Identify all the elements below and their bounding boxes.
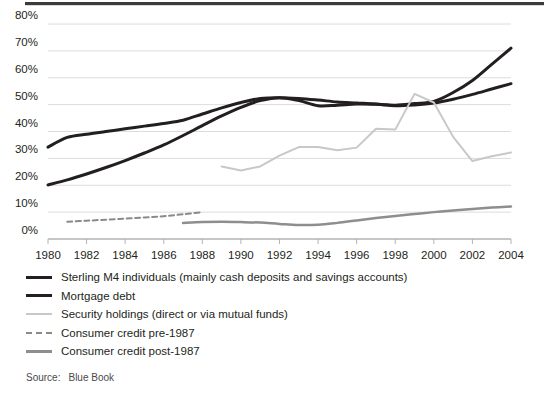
- legend-swatch-line-icon: [26, 345, 52, 357]
- x-axis-tick-label: 1996: [344, 249, 370, 261]
- legend-item-sterling-m4[interactable]: Sterling M4 individuals (mainly cash dep…: [26, 268, 526, 287]
- legend-label: Mortgage debt: [61, 289, 135, 303]
- legend-swatch-line-icon: [26, 290, 52, 302]
- y-axis-tick-label: 30%: [15, 143, 38, 155]
- y-axis-tick-label: 0%: [21, 224, 38, 236]
- legend-label: Consumer credit pre-1987: [61, 326, 195, 340]
- legend-swatch-line-icon: [26, 271, 52, 283]
- chart-page: 0%10%20%30%40%50%60%70%80%19801982198419…: [0, 0, 545, 406]
- y-axis-tick-label: 50%: [15, 90, 38, 102]
- legend-label: Security holdings (direct or via mutual …: [61, 307, 288, 321]
- source-value: Blue Book: [68, 372, 114, 383]
- source-note: Source: Blue Book: [26, 372, 114, 383]
- series-line: [183, 206, 511, 225]
- legend-item-security-holdings[interactable]: Security holdings (direct or via mutual …: [26, 305, 526, 324]
- x-axis-tick-label: 2000: [421, 249, 447, 261]
- x-axis-tick-label: 1982: [74, 249, 100, 261]
- x-axis-tick-label: 1998: [382, 249, 408, 261]
- chart-legend: Sterling M4 individuals (mainly cash dep…: [26, 268, 526, 361]
- x-axis-tick-label: 1986: [151, 249, 177, 261]
- legend-item-consumer-credit-post-1987[interactable]: Consumer credit post-1987: [26, 342, 526, 361]
- y-axis-tick-label: 80%: [15, 10, 38, 21]
- y-axis-tick-label: 70%: [15, 36, 38, 48]
- x-axis-tick-label: 1980: [35, 249, 61, 261]
- y-axis-tick-label: 60%: [15, 63, 38, 75]
- x-axis-tick-label: 2002: [460, 249, 486, 261]
- y-axis-tick-label: 40%: [15, 117, 38, 129]
- x-axis-tick-label: 1984: [112, 249, 138, 261]
- y-axis-tick-label: 20%: [15, 170, 38, 182]
- series-line: [67, 212, 202, 222]
- chart-area: 0%10%20%30%40%50%60%70%80%19801982198419…: [0, 10, 545, 265]
- legend-label: Consumer credit post-1987: [61, 344, 200, 358]
- legend-item-consumer-credit-pre-1987[interactable]: Consumer credit pre-1987: [26, 324, 526, 343]
- legend-swatch-line-icon: [26, 308, 52, 320]
- source-label: Source:: [26, 372, 60, 383]
- x-axis-tick-label: 2004: [498, 249, 524, 261]
- x-axis-tick-label: 1988: [190, 249, 216, 261]
- line-chart-svg: 0%10%20%30%40%50%60%70%80%19801982198419…: [0, 10, 545, 265]
- top-divider-shadow: [25, 5, 544, 6]
- x-axis-tick-label: 1994: [305, 249, 331, 261]
- y-axis-tick-label: 10%: [15, 197, 38, 209]
- legend-swatch-dashed-line-icon: [26, 327, 52, 339]
- x-axis-tick-label: 1990: [228, 249, 254, 261]
- legend-item-mortgage-debt[interactable]: Mortgage debt: [26, 287, 526, 306]
- legend-label: Sterling M4 individuals (mainly cash dep…: [61, 270, 407, 284]
- x-axis-tick-label: 1992: [267, 249, 293, 261]
